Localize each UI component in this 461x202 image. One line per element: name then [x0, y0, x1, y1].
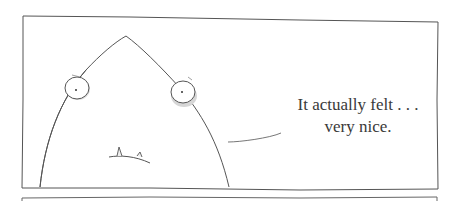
speech-caption: It actually felt . . . very nice.: [268, 94, 448, 138]
caption-line-1: It actually felt . . .: [268, 94, 448, 116]
character-body: [40, 36, 229, 187]
character-right-eye: [171, 77, 197, 107]
comic-strip: It actually felt . . . very nice.: [0, 0, 461, 202]
caption-line-2: very nice.: [268, 116, 448, 138]
next-panel-border: [22, 197, 437, 201]
